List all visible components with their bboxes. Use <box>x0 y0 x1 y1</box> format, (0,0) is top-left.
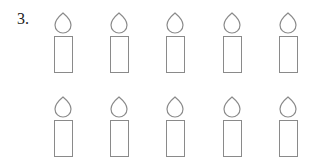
candle <box>52 12 74 76</box>
flame-icon <box>166 96 184 118</box>
flame-icon <box>223 12 241 34</box>
candle-body <box>166 36 185 73</box>
candle-body <box>223 36 242 73</box>
problem-number: 3. <box>17 10 29 28</box>
candle <box>277 12 299 76</box>
candle <box>221 12 243 76</box>
candle <box>108 12 130 76</box>
candle-body <box>166 120 185 157</box>
candle-body <box>54 36 73 73</box>
candle-body <box>54 120 73 157</box>
candle-body <box>279 36 298 73</box>
candle-body <box>110 36 129 73</box>
flame-icon <box>110 96 128 118</box>
candle-body <box>279 120 298 157</box>
candle <box>108 96 130 160</box>
flame-icon <box>54 96 72 118</box>
candle <box>164 96 186 160</box>
candle-body <box>223 120 242 157</box>
candle <box>277 96 299 160</box>
candle <box>164 12 186 76</box>
flame-icon <box>223 96 241 118</box>
candle <box>52 96 74 160</box>
flame-icon <box>54 12 72 34</box>
candle-body <box>110 120 129 157</box>
flame-icon <box>110 12 128 34</box>
flame-icon <box>279 96 297 118</box>
candle <box>221 96 243 160</box>
flame-icon <box>166 12 184 34</box>
flame-icon <box>279 12 297 34</box>
